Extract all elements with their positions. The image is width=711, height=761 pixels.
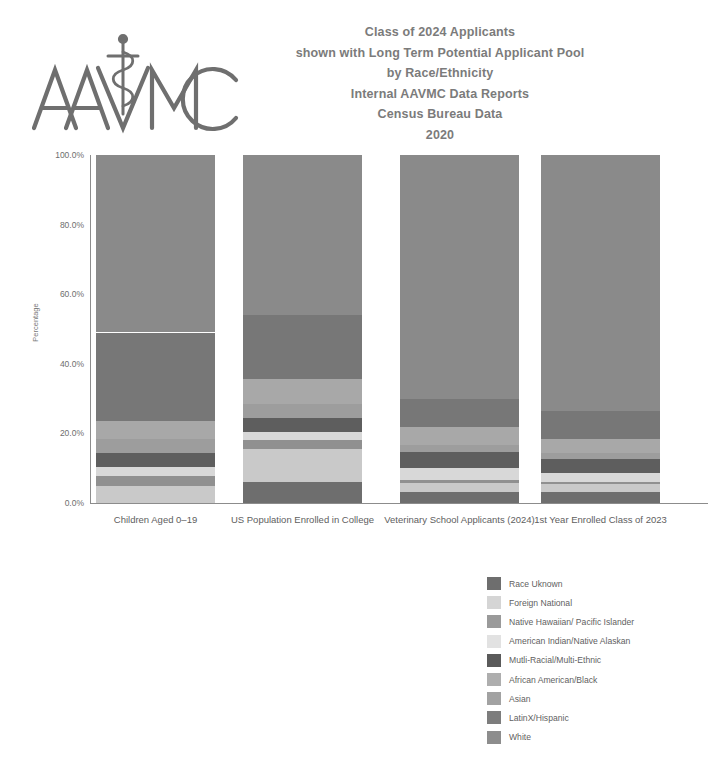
x-tick-label: US Population Enrolled in College: [225, 512, 380, 528]
bar-segment[interactable]: [400, 483, 519, 492]
x-tick-label: Veterinary School Applicants (2024): [382, 512, 537, 528]
legend-item[interactable]: LatinX/Hispanic: [487, 708, 711, 727]
bar-segment[interactable]: [243, 449, 362, 482]
bar-segment[interactable]: [541, 492, 660, 503]
legend-item-label: American Indian/Native Alaskan: [509, 636, 630, 646]
bar-segment[interactable]: [96, 439, 215, 454]
bar-segment[interactable]: [541, 484, 660, 492]
legend-swatch-icon: [487, 692, 501, 705]
legend-item-label: Mutli-Racial/Multi-Ethnic: [509, 655, 601, 665]
y-axis-line: [90, 155, 91, 504]
x-tick-label: 1st Year Enrolled Class of 2023: [523, 512, 678, 528]
bar-segment[interactable]: [243, 482, 362, 503]
bar-segment[interactable]: [96, 467, 215, 476]
y-tick-label: 40.0%: [24, 359, 84, 369]
bar-segment[interactable]: [400, 427, 519, 445]
legend-item-label: Native Hawaiian/ Pacific Islander: [509, 617, 634, 627]
legend-item[interactable]: Foreign National: [487, 593, 711, 612]
legend-swatch-icon: [487, 654, 501, 667]
bar-segment[interactable]: [243, 404, 362, 418]
bar-segment[interactable]: [243, 418, 362, 432]
legend-item[interactable]: African American/Black: [487, 670, 711, 689]
bar-segment[interactable]: [243, 432, 362, 441]
legend-item-label: LatinX/Hispanic: [509, 713, 569, 723]
bar-segment[interactable]: [96, 453, 215, 467]
bar-segment[interactable]: [243, 440, 362, 449]
y-tick-label: 60.0%: [24, 289, 84, 299]
legend-item[interactable]: Mutli-Racial/Multi-Ethnic: [487, 651, 711, 670]
bar-segment[interactable]: [96, 421, 215, 438]
bar-column[interactable]: [400, 155, 519, 503]
legend-item[interactable]: White: [487, 728, 711, 747]
bar-segment[interactable]: [96, 476, 215, 486]
legend-item-label: Foreign National: [509, 598, 572, 608]
legend-item-label: White: [509, 732, 531, 742]
bar-segment[interactable]: [541, 459, 660, 473]
legend-item-label: Asian: [509, 694, 531, 704]
bar-segment[interactable]: [243, 155, 362, 315]
legend-item-label: Race Uknown: [509, 579, 563, 589]
y-axis-ticks: 0.0%20.0%40.0%60.0%80.0%100.0%: [24, 0, 84, 761]
bar-segment[interactable]: [541, 155, 660, 411]
y-tick-label: 0.0%: [24, 498, 84, 508]
bar-segment[interactable]: [243, 315, 362, 379]
bar-segment[interactable]: [400, 452, 519, 468]
bar-segment[interactable]: [400, 155, 519, 399]
bar-segment[interactable]: [400, 480, 519, 483]
bar-segment[interactable]: [400, 445, 519, 452]
y-tick-label: 100.0%: [24, 150, 84, 160]
bar-column[interactable]: [243, 155, 362, 503]
bar-segment[interactable]: [541, 473, 660, 482]
bar-column[interactable]: [96, 155, 215, 503]
legend-swatch-icon: [487, 731, 501, 744]
legend-item[interactable]: Native Hawaiian/ Pacific Islander: [487, 612, 711, 631]
y-tick-label: 20.0%: [24, 428, 84, 438]
legend-swatch-icon: [487, 577, 501, 590]
bar-segment[interactable]: [541, 453, 660, 459]
bar-segment[interactable]: [243, 379, 362, 403]
chart-legend: Race UknownForeign NationalNative Hawaii…: [487, 574, 711, 747]
bar-segment[interactable]: [96, 155, 215, 332]
bar-segment[interactable]: [400, 492, 519, 503]
legend-item[interactable]: American Indian/Native Alaskan: [487, 632, 711, 651]
legend-item[interactable]: Race Uknown: [487, 574, 711, 593]
bar-segment[interactable]: [541, 439, 660, 454]
bar-segment[interactable]: [541, 482, 660, 484]
y-tick-label: 80.0%: [24, 220, 84, 230]
legend-item[interactable]: Asian: [487, 689, 711, 708]
x-axis-line: [90, 503, 708, 504]
bar-segment[interactable]: [400, 468, 519, 480]
bar-segment[interactable]: [400, 399, 519, 428]
legend-swatch-icon: [487, 635, 501, 648]
legend-swatch-icon: [487, 615, 501, 628]
legend-swatch-icon: [487, 711, 501, 724]
legend-item-label: African American/Black: [509, 675, 597, 685]
legend-swatch-icon: [487, 673, 501, 686]
x-tick-label: Children Aged 0–19: [78, 512, 233, 528]
bar-segment[interactable]: [541, 411, 660, 439]
bar-segment[interactable]: [96, 486, 215, 503]
bar-column[interactable]: [541, 155, 660, 503]
legend-swatch-icon: [487, 596, 501, 609]
bar-segment[interactable]: [96, 333, 215, 422]
